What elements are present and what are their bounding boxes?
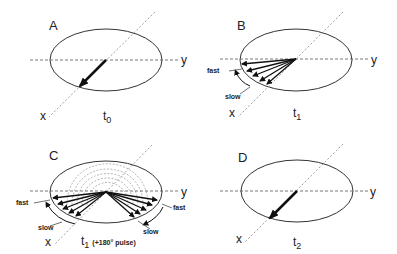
fast-leader-right bbox=[162, 204, 172, 208]
fast-label-right: fast bbox=[173, 204, 186, 211]
rotation-arrow-left bbox=[47, 204, 75, 224]
panel-letter: C bbox=[49, 148, 58, 163]
panel-a: A y x t0 bbox=[30, 12, 187, 125]
x-axis-label: x bbox=[40, 109, 46, 123]
panel-c: C y x fast slow bbox=[16, 145, 187, 250]
slow-label: slow bbox=[225, 93, 241, 100]
panel-letter: D bbox=[238, 150, 247, 165]
x-axis-label: x bbox=[45, 235, 51, 249]
y-axis-label: y bbox=[371, 53, 377, 67]
ellipse bbox=[240, 29, 352, 91]
magnetization-arrow bbox=[270, 191, 297, 218]
fast-leader-left bbox=[34, 200, 50, 203]
x-axis-label: x bbox=[236, 232, 242, 246]
spin-fan-right bbox=[106, 192, 157, 217]
slow-label-left: slow bbox=[38, 224, 54, 231]
time-label: t1(+180° pulse) bbox=[81, 234, 136, 250]
magnetization-arrow bbox=[80, 60, 106, 86]
fast-leader bbox=[229, 69, 242, 71]
spin-echo-diagram: A y x t0 B y x fast slow t1 C bbox=[0, 0, 397, 254]
panel-letter: A bbox=[49, 18, 58, 33]
panel-d: D y x t2 bbox=[220, 144, 376, 251]
slow-label-right: slow bbox=[143, 228, 159, 235]
rotation-arrow bbox=[236, 72, 250, 86]
rotation-arrow-right bbox=[145, 207, 163, 224]
fast-label-left: fast bbox=[16, 199, 29, 206]
time-label: t2 bbox=[293, 235, 301, 251]
panel-letter: B bbox=[237, 18, 246, 33]
x-axis-label: x bbox=[229, 106, 235, 120]
panel-b: B y x fast slow t1 bbox=[207, 12, 377, 122]
fast-label: fast bbox=[207, 67, 220, 74]
y-axis-label: y bbox=[181, 185, 187, 199]
time-label: t1 bbox=[293, 106, 301, 122]
slow-leader bbox=[240, 87, 250, 94]
y-axis-label: y bbox=[370, 185, 376, 199]
time-label: t0 bbox=[103, 109, 111, 125]
spin-fan bbox=[242, 59, 296, 84]
spin-fan-left bbox=[53, 192, 106, 216]
y-axis-label: y bbox=[181, 53, 187, 67]
